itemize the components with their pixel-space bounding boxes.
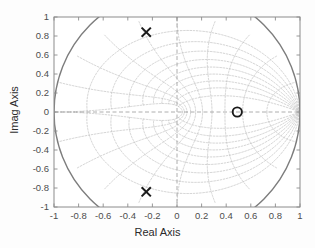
x-axis-label: Real Axis xyxy=(0,226,315,238)
y-tick-label: 0 xyxy=(44,106,49,117)
x-tick-label: -1 xyxy=(50,210,58,221)
pole-zero-plot: -1-0.8-0.6-0.4-0.200.20.40.60.8110.80.60… xyxy=(0,0,315,248)
x-tick-label: 1 xyxy=(297,210,302,221)
x-tick-label: 0 xyxy=(174,210,179,221)
y-tick-label: 1 xyxy=(44,11,49,22)
pole-zero-figure: -1-0.8-0.6-0.4-0.200.20.40.60.8110.80.60… xyxy=(0,0,315,248)
x-tick-label: -0.2 xyxy=(144,210,160,221)
y-axis-label: Imag Axis xyxy=(8,60,20,160)
x-tick-label: 0.6 xyxy=(244,210,257,221)
y-tick-label: 0.4 xyxy=(36,68,49,79)
x-tick-label: 0.2 xyxy=(195,210,208,221)
x-tick-label: 0.8 xyxy=(269,210,282,221)
y-tick-label: 0.8 xyxy=(36,30,49,41)
y-tick-label: 0.2 xyxy=(36,87,49,98)
y-tick-label: -0.8 xyxy=(33,182,49,193)
y-tick-label: 0.6 xyxy=(36,49,49,60)
x-tick-label: 0.4 xyxy=(220,210,233,221)
y-tick-label: -0.6 xyxy=(33,163,49,174)
x-tick-label: -0.8 xyxy=(70,210,86,221)
y-tick-label: -1 xyxy=(41,201,49,212)
x-tick-label: -0.4 xyxy=(120,210,136,221)
y-tick-label: -0.4 xyxy=(33,144,49,155)
y-tick-label: -0.2 xyxy=(33,125,49,136)
x-tick-label: -0.6 xyxy=(95,210,111,221)
